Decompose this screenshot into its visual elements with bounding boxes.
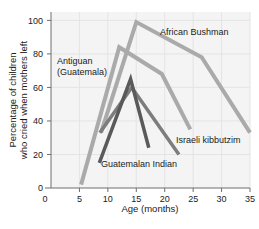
- y-axis-ticks: 020406080100: [28, 16, 51, 194]
- series-label-bushman: African Bushman: [160, 27, 229, 37]
- x-tick-label: 25: [188, 194, 198, 204]
- y-tick-label: 0: [38, 183, 43, 193]
- x-tick-label: 35: [245, 194, 255, 204]
- y-tick-label: 100: [28, 16, 43, 26]
- x-tick-label: 10: [103, 194, 113, 204]
- series-label-guatemalan: Guatemalan Indian: [101, 159, 177, 169]
- x-tick-label: 30: [217, 194, 227, 204]
- y-tick-label: 40: [33, 116, 43, 126]
- chart-container: 020406080100 05101520253035 Age (months)…: [0, 0, 259, 229]
- x-axis-ticks: 05101520253035: [42, 188, 255, 204]
- series-label-antiguan: Antiguan: [57, 56, 93, 66]
- y-tick-label: 60: [33, 83, 43, 93]
- x-tick-label: 0: [42, 194, 47, 204]
- y-axis-title-line1: Percentage of children: [7, 52, 18, 147]
- y-tick-label: 80: [33, 49, 43, 59]
- series-label-antiguan-line2: (Guatemala): [57, 67, 107, 77]
- series-label-kibbutzim: Israeli kibbutzim: [176, 135, 241, 145]
- x-tick-label: 5: [77, 194, 82, 204]
- y-tick-label: 20: [33, 150, 43, 160]
- y-axis-title-line2: who cried when mothers left: [18, 41, 29, 161]
- x-axis-title: Age (months): [121, 203, 178, 214]
- line-chart: 020406080100 05101520253035 Age (months)…: [0, 0, 259, 229]
